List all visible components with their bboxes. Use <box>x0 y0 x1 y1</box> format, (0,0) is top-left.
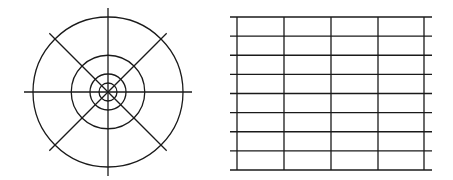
polar-target-diagram <box>24 8 192 176</box>
rectangular-grid-diagram <box>230 17 432 170</box>
diagram-canvas <box>0 0 453 180</box>
